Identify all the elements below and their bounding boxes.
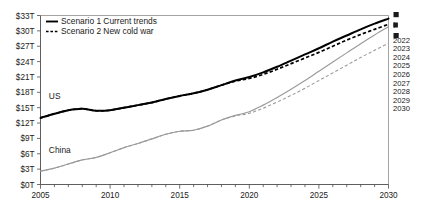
chart-container: $0T$3T$6T$9T$12T$15T$18T$21T$24T$27T$30T…: [0, 0, 430, 209]
x-tick-label: 2010: [101, 191, 120, 200]
right-year-column: 202220232024202520262027202820292030: [393, 36, 410, 114]
y-tick-label: $33T: [16, 12, 35, 21]
series-line-china-scenario-1: [41, 27, 389, 171]
y-tick-label: $24T: [16, 58, 35, 67]
y-tick-label: $3T: [20, 165, 34, 174]
line-chart: $0T$3T$6T$9T$12T$15T$18T$21T$24T$27T$30T…: [0, 0, 430, 209]
x-tick-label: 2015: [171, 191, 190, 200]
y-tick-label: $18T: [16, 88, 35, 97]
series-line-china-scenario-2: [41, 43, 389, 171]
chart-legend: Scenario 1 Current trends Scenario 2 New…: [43, 16, 193, 39]
right-clipped-glyphs: [394, 12, 399, 38]
clipped-year-glyph-gap: [394, 23, 395, 28]
y-tick-label: $12T: [16, 119, 35, 128]
x-tick-label: 2025: [310, 191, 329, 200]
x-tick-label: 2020: [240, 191, 259, 200]
y-axis-ticks: [37, 16, 41, 185]
legend-label-scenario-1: Scenario 1 Current trends: [61, 16, 157, 26]
y-tick-label: $27T: [16, 42, 35, 51]
y-axis-tick-labels: $0T$3T$6T$9T$12T$15T$18T$21T$24T$27T$30T…: [16, 12, 35, 190]
y-tick-label: $9T: [20, 134, 34, 143]
x-axis-ticks: [41, 185, 389, 189]
clipped-year-glyph: [394, 33, 399, 38]
x-axis-tick-labels: 200520102015202020252030: [31, 191, 398, 200]
series-lines: [41, 19, 389, 172]
y-tick-label: $0T: [20, 181, 34, 190]
y-tick-label: $6T: [20, 150, 34, 159]
series-label-us: US: [49, 91, 61, 101]
y-tick-label: $30T: [16, 27, 35, 36]
series-annotations: USChina: [49, 91, 71, 154]
series-label-china: China: [49, 145, 71, 155]
clipped-year-glyph: [394, 12, 399, 17]
right-year-label: 2030: [393, 104, 410, 113]
y-tick-label: $15T: [16, 104, 35, 113]
x-tick-label: 2030: [379, 191, 398, 200]
legend-label-scenario-2: Scenario 2 New cold war: [61, 26, 154, 36]
x-tick-label: 2005: [31, 191, 50, 200]
y-tick-label: $21T: [16, 73, 35, 82]
